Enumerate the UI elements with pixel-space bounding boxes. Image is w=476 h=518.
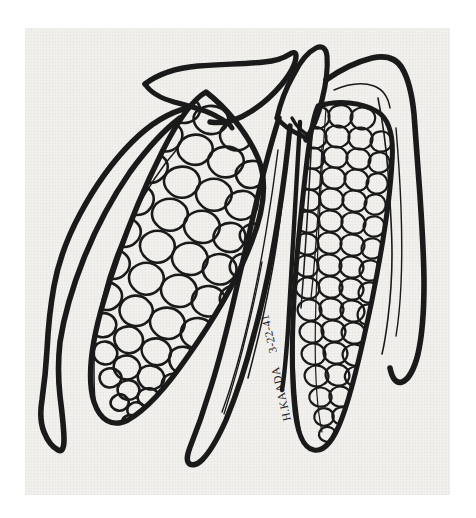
artboard: 3-22-41 H.KAADA Two Ears of Corn pen and…: [0, 0, 476, 518]
signature-name: H.KAADA: [269, 365, 293, 422]
upper-center-husk-leaf: [277, 47, 327, 140]
center-husk-leaf: [187, 118, 290, 465]
signature-date: 3-22-41: [258, 313, 279, 354]
corn-line-drawing: 3-22-41 H.KAADA: [0, 0, 476, 518]
